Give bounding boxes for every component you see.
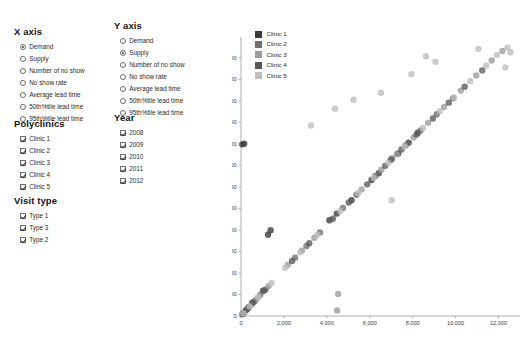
scatter-point[interactable] — [314, 232, 320, 238]
x-axis-option-no-show-rate[interactable]: No show rate — [14, 78, 85, 89]
radio-icon[interactable] — [20, 56, 26, 62]
year-option-2012[interactable]: 2012 — [114, 176, 143, 187]
legend-item[interactable]: Clinic 1 — [255, 29, 287, 39]
year-option-2008[interactable]: 2008 — [114, 128, 143, 139]
scatter-point[interactable] — [282, 265, 288, 271]
checkbox-icon[interactable] — [20, 184, 26, 190]
x-axis-option-demand[interactable]: Demand — [14, 42, 85, 53]
radio-icon[interactable] — [120, 74, 126, 80]
scatter-point[interactable] — [394, 151, 400, 157]
scatter-point[interactable] — [446, 99, 452, 105]
legend-item[interactable]: Clinic 4 — [255, 60, 287, 70]
radio-icon[interactable] — [120, 62, 126, 68]
y-axis-option-supply[interactable]: Supply — [114, 48, 185, 59]
checkbox-icon[interactable] — [20, 136, 26, 142]
scatter-point[interactable] — [261, 287, 267, 293]
y-axis-option-demand[interactable]: Demand — [114, 36, 185, 47]
radio-icon[interactable] — [120, 98, 126, 104]
year-option-2011[interactable]: 2011 — [114, 164, 143, 175]
radio-icon[interactable] — [20, 68, 26, 74]
scatter-point[interactable] — [488, 57, 494, 63]
scatter-point[interactable] — [268, 280, 274, 286]
scatter-point[interactable] — [330, 216, 336, 222]
scatter-point[interactable] — [346, 199, 352, 205]
scatter-point[interactable] — [461, 84, 467, 90]
scatter-point[interactable] — [432, 59, 438, 65]
scatter-point[interactable] — [255, 294, 261, 300]
x-axis-option-supply[interactable]: Supply — [14, 54, 85, 65]
scatter-point[interactable] — [308, 122, 314, 128]
checkbox-icon[interactable] — [20, 172, 26, 178]
checkbox-icon[interactable] — [20, 148, 26, 154]
scatter-point[interactable] — [378, 90, 384, 96]
scatter-point[interactable] — [494, 52, 500, 58]
scatter-point[interactable] — [337, 208, 343, 214]
scatter-point[interactable] — [451, 94, 457, 100]
scatter-point[interactable] — [385, 160, 391, 166]
scatter-point[interactable] — [425, 120, 431, 126]
visit-type-option-type-3[interactable]: Type 3 — [14, 223, 57, 234]
scatter-point[interactable] — [401, 143, 407, 149]
scatter-point[interactable] — [502, 64, 508, 70]
scatter-point[interactable] — [240, 310, 246, 316]
checkbox-icon[interactable] — [20, 237, 26, 243]
y-axis-option-number-of-no-show[interactable]: Number of no show — [114, 60, 185, 71]
scatter-point[interactable] — [408, 71, 414, 77]
radio-icon[interactable] — [20, 104, 26, 110]
scatter-point[interactable] — [430, 115, 436, 121]
scatter-point[interactable] — [350, 96, 356, 102]
scatter-point[interactable] — [388, 197, 394, 203]
scatter-point[interactable] — [289, 258, 295, 264]
legend-item[interactable]: Clinic 3 — [255, 50, 287, 60]
checkbox-icon[interactable] — [120, 166, 126, 172]
scatter-point[interactable] — [420, 125, 426, 131]
radio-icon[interactable] — [120, 50, 126, 56]
y-axis-option-no-show-rate[interactable]: No show rate — [114, 72, 185, 83]
year-option-2010[interactable]: 2010 — [114, 152, 143, 163]
scatter-point[interactable] — [467, 78, 473, 84]
y-axis-option-average-lead-time[interactable]: Average lead time — [114, 84, 185, 95]
scatter-point[interactable] — [483, 62, 489, 68]
legend-item[interactable]: Clinic 2 — [255, 39, 287, 49]
radio-icon[interactable] — [20, 92, 26, 98]
scatter-point[interactable] — [332, 105, 338, 111]
checkbox-icon[interactable] — [120, 130, 126, 136]
visit-type-option-type-1[interactable]: Type 1 — [14, 211, 57, 222]
scatter-point[interactable] — [423, 53, 429, 59]
radio-icon[interactable] — [20, 80, 26, 86]
radio-icon[interactable] — [120, 86, 126, 92]
visit-type-option-type-2[interactable]: Type 2 — [14, 235, 57, 246]
scatter-point[interactable] — [241, 141, 247, 147]
polyclinics-option-clinic-2[interactable]: Clinic 2 — [14, 146, 65, 157]
checkbox-icon[interactable] — [20, 225, 26, 231]
scatter-point[interactable] — [297, 249, 303, 255]
scatter-point[interactable] — [335, 291, 341, 297]
x-axis-option-50th-lead-time[interactable]: 50th%tile lead time — [14, 102, 85, 113]
scatter-point[interactable] — [306, 240, 312, 246]
checkbox-icon[interactable] — [120, 154, 126, 160]
polyclinics-option-clinic-5[interactable]: Clinic 5 — [14, 182, 65, 193]
x-axis-option-average-lead-time[interactable]: Average lead time — [14, 90, 85, 101]
scatter-point[interactable] — [334, 307, 340, 313]
scatter-point[interactable] — [267, 227, 273, 233]
scatter-point[interactable] — [504, 44, 510, 50]
checkbox-icon[interactable] — [20, 213, 26, 219]
scatter-point[interactable] — [413, 131, 419, 137]
radio-icon[interactable] — [120, 38, 126, 44]
scatter-point[interactable] — [355, 190, 361, 196]
scatter-point[interactable] — [437, 108, 443, 114]
scatter-point[interactable] — [364, 181, 370, 187]
polyclinics-option-clinic-4[interactable]: Clinic 4 — [14, 170, 65, 181]
polyclinics-option-clinic-3[interactable]: Clinic 3 — [14, 158, 65, 169]
checkbox-icon[interactable] — [120, 142, 126, 148]
legend-item[interactable]: Clinic 5 — [255, 71, 287, 81]
year-option-2009[interactable]: 2009 — [114, 140, 143, 151]
polyclinics-option-clinic-1[interactable]: Clinic 1 — [14, 134, 65, 145]
scatter-point[interactable] — [370, 175, 376, 181]
y-axis-option-50th-lead-time[interactable]: 50th%tile lead time — [114, 96, 185, 107]
radio-icon[interactable] — [20, 44, 26, 50]
scatter-point[interactable] — [475, 46, 481, 52]
checkbox-icon[interactable] — [20, 160, 26, 166]
x-axis-option-number-of-no-show[interactable]: Number of no show — [14, 66, 85, 77]
scatter-point[interactable] — [473, 72, 479, 78]
